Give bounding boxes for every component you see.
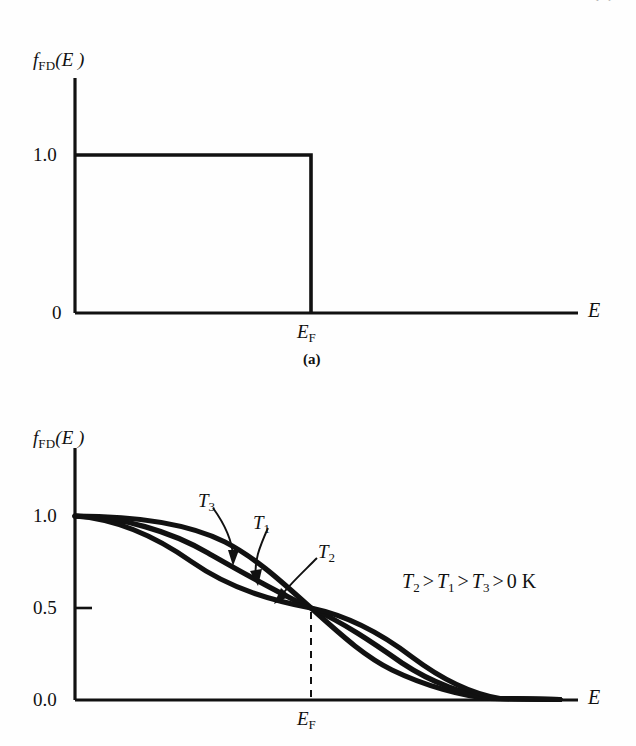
panel-a-step-curve	[75, 155, 311, 313]
figure-fermi-dirac: fFD(E ) 1.0 0 EF E (a)	[0, 0, 636, 746]
inequality-op-2: >	[455, 570, 472, 592]
panel-b-ytick-1: 1.0	[33, 506, 57, 525]
panel-a-y-axis-label-arg: (E )	[55, 49, 84, 70]
panel-b-y-axis-label: fFD(E )	[33, 428, 84, 450]
panel-a-fermi-label: EF	[297, 322, 316, 344]
page-background: 3.2 fFD(E ) 1.0 0 EF E (a)	[0, 0, 636, 746]
panel-b-fermi-label-sub: F	[309, 717, 316, 732]
panel-b-temperature-inequality: T2>T1>T3>0 K	[402, 571, 536, 594]
panel-b-leader-arrow-t2	[281, 558, 317, 596]
panel-b-curve-label-t2-sub: 2	[329, 550, 336, 565]
panel-b-ytick-half: 0.5	[33, 598, 57, 617]
panel-a-y-axis-label-sub: FD	[38, 58, 55, 73]
panel-b-curve-label-t2-name: T	[318, 541, 329, 562]
inequality-t1-sub: 1	[448, 580, 455, 595]
inequality-op-3: >	[489, 570, 506, 592]
panel-b-ytick-0: 0.0	[33, 690, 57, 709]
panel-b-fermi-label-e: E	[297, 708, 309, 729]
panel-b-y-axis-label-arg: (E )	[55, 427, 84, 448]
panel-a-fermi-label-e: E	[297, 321, 309, 342]
inequality-t1: T	[437, 570, 448, 592]
panel-b-y-axis-label-sub: FD	[38, 436, 55, 451]
panel-a-x-axis-label: E	[588, 300, 600, 320]
panel-a-ytick-0: 0	[52, 303, 62, 322]
panel-b-curve-label-t1-name: T	[253, 512, 264, 533]
panel-a-plot	[0, 0, 636, 380]
panel-b-curve-label-t3-sub: 3	[209, 499, 216, 514]
panel-b-curve-label-t1: T1	[253, 513, 270, 535]
panel-a-fermi-label-sub: F	[309, 330, 316, 345]
panel-b-leader-arrow-t3	[213, 508, 233, 556]
inequality-t3: T	[472, 570, 483, 592]
inequality-t2-sub: 2	[413, 580, 420, 595]
panel-b-curve-label-t3: T3	[198, 491, 215, 513]
panel-a-ytick-1: 1.0	[33, 145, 57, 164]
panel-b-x-axis-label: E	[588, 687, 600, 707]
panel-b-fermi-label: EF	[297, 709, 316, 731]
panel-b-curve-label-t2: T2	[318, 542, 335, 564]
inequality-op-1: >	[420, 570, 437, 592]
panel-b-curve-label-t1-sub: 1	[264, 521, 271, 536]
panel-a-caption: (a)	[303, 352, 321, 367]
panel-a-y-axis-label: fFD(E )	[33, 50, 84, 72]
inequality-zero-kelvin: 0 K	[507, 570, 536, 592]
inequality-t2: T	[402, 570, 413, 592]
panel-b-curve-label-t3-name: T	[198, 490, 209, 511]
